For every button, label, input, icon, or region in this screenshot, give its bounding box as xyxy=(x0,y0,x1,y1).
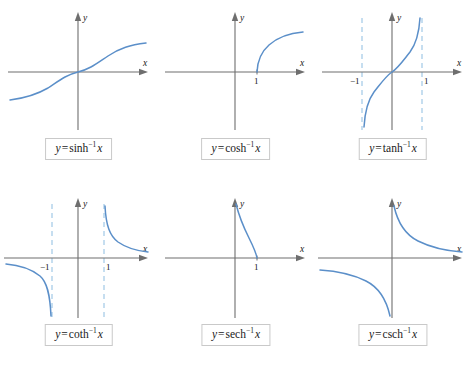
label-op: = xyxy=(60,328,69,340)
label-tanh-inverse: y=tanh−1x xyxy=(358,138,427,160)
label-cosh-inverse: y=cosh−1x xyxy=(201,138,271,160)
axes-cosh-inverse xyxy=(165,12,305,130)
label-var: x xyxy=(411,142,417,154)
label-op: = xyxy=(374,142,383,154)
curve-csch-inverse-right xyxy=(394,206,462,252)
x-tick-label-minus-1: −1 xyxy=(350,76,360,86)
y-axis-label: y xyxy=(239,199,245,209)
label-csch-inverse: y=csch−1x xyxy=(358,324,427,346)
plot-cosh-inverse: x y 1 xyxy=(157,0,314,140)
panel-cosh-inverse: x y 1 y=cosh−1x xyxy=(157,0,314,185)
label-var: x xyxy=(96,142,102,154)
axes-coth-inverse xyxy=(4,198,148,318)
plot-sinh-inverse: x y xyxy=(0,0,157,140)
curve-coth-inverse-right xyxy=(105,206,148,252)
label-fn: sech xyxy=(226,328,246,340)
inverse-hyperbolic-functions-figure: x y y=sinh−1x x y 1 xyxy=(0,0,471,371)
label-fn: csch xyxy=(383,328,403,340)
x-axis-label: x xyxy=(299,244,305,254)
axes-sech-inverse xyxy=(165,198,305,318)
label-sech-inverse: y=sech−1x xyxy=(201,324,270,346)
label-fn: sinh xyxy=(69,142,88,154)
label-op: = xyxy=(217,328,226,340)
y-axis-label: y xyxy=(396,199,402,209)
y-axis-label: y xyxy=(396,13,402,23)
label-fn: tanh xyxy=(383,142,403,154)
axes-csch-inverse xyxy=(318,198,462,318)
x-axis-label: x xyxy=(299,58,305,68)
x-tick-label-1: 1 xyxy=(424,76,429,86)
plot-csch-inverse: x y xyxy=(314,186,471,326)
x-tick-label-1: 1 xyxy=(254,262,259,272)
label-fn: coth xyxy=(69,328,89,340)
panel-csch-inverse: x y y=csch−1x xyxy=(314,186,471,371)
label-fn: cosh xyxy=(225,142,246,154)
panel-tanh-inverse: x y −1 1 y=tanh−1x xyxy=(314,0,471,185)
plot-sech-inverse: x y 1 xyxy=(157,186,314,326)
y-axis-label: y xyxy=(82,199,88,209)
label-coth-inverse: y=coth−1x xyxy=(44,324,113,346)
label-exponent: −1 xyxy=(88,140,96,149)
y-axis-label: y xyxy=(239,13,245,23)
axes-tanh-inverse xyxy=(322,12,462,130)
label-var: x xyxy=(254,142,260,154)
panel-coth-inverse: x y −1 1 y=coth−1x xyxy=(0,186,157,371)
label-var: x xyxy=(97,328,103,340)
y-axis-label: y xyxy=(82,13,88,23)
x-tick-label-1: 1 xyxy=(106,262,111,272)
curve-sech-inverse xyxy=(236,204,257,258)
x-axis-label: x xyxy=(456,58,462,68)
axes-sinh-inverse xyxy=(8,12,148,130)
x-tick-label-minus-1: −1 xyxy=(40,262,50,272)
x-tick-label-1: 1 xyxy=(254,76,259,86)
label-var: x xyxy=(254,328,260,340)
curve-cosh-inverse xyxy=(257,32,303,72)
x-axis-label: x xyxy=(142,58,148,68)
label-sinh-inverse: y=sinh−1x xyxy=(45,138,113,160)
panel-sech-inverse: x y 1 y=sech−1x xyxy=(157,186,314,371)
label-exponent: −1 xyxy=(246,326,254,335)
label-op: = xyxy=(217,142,226,154)
curve-csch-inverse-left xyxy=(320,270,390,316)
plot-tanh-inverse: x y −1 1 xyxy=(314,0,471,140)
label-op: = xyxy=(61,142,70,154)
label-exponent: −1 xyxy=(246,140,254,149)
plot-coth-inverse: x y −1 1 xyxy=(0,186,157,326)
label-exponent: −1 xyxy=(403,326,411,335)
label-var: x xyxy=(411,328,417,340)
panel-sinh-inverse: x y y=sinh−1x xyxy=(0,0,157,185)
label-op: = xyxy=(374,328,383,340)
